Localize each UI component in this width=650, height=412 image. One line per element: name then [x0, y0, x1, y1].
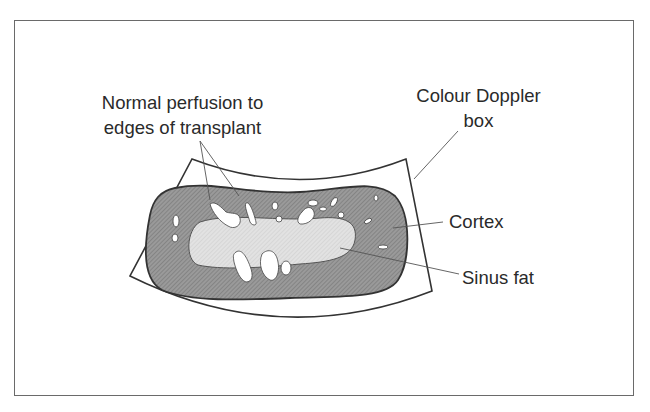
label-normal-perfusion-line1: Normal perfusion to — [80, 90, 285, 115]
label-colour-doppler-line2: box — [396, 108, 561, 133]
label-normal-perfusion-line2: edges of transplant — [80, 115, 285, 140]
label-sinus-fat: Sinus fat — [462, 265, 534, 290]
label-normal-perfusion: Normal perfusion to edges of transplant — [80, 90, 285, 140]
label-cortex: Cortex — [449, 209, 504, 234]
leader-doppler-box — [414, 131, 458, 179]
label-colour-doppler-line1: Colour Doppler — [396, 83, 561, 108]
kidney-doppler-diagram — [0, 0, 650, 412]
label-colour-doppler-box: Colour Doppler box — [396, 83, 561, 133]
